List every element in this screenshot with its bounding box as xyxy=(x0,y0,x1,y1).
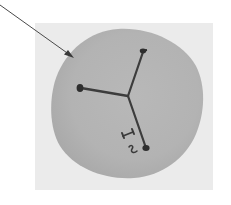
tip-left xyxy=(77,84,84,92)
tip-lower xyxy=(142,145,149,151)
disc xyxy=(51,29,203,178)
disc-photo xyxy=(0,0,231,205)
pointer-arrow xyxy=(0,5,74,58)
